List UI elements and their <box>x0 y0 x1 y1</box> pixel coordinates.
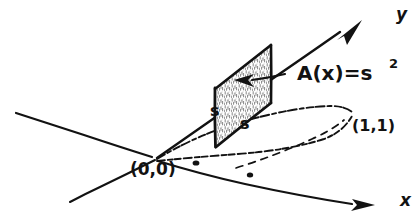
side-label-bottom: s <box>240 114 250 133</box>
hand-drawn-diagram: y x (0,0) (1,1) s s A(x)=s 2 <box>0 0 419 223</box>
corner-point-label: (1,1) <box>352 116 395 135</box>
area-formula-label: A(x)=s 2 <box>297 56 398 85</box>
x-axis-label: x <box>399 190 412 210</box>
area-formula-text: A(x)=s <box>297 61 372 85</box>
figure-canvas: y x (0,0) (1,1) s s A(x)=s 2 <box>0 0 419 223</box>
origin-label: (0,0) <box>130 159 176 179</box>
y-axis-label: y <box>396 4 408 24</box>
area-formula-exponent: 2 <box>389 56 398 71</box>
side-label-left: s <box>210 101 220 120</box>
base-marker-dots <box>193 160 254 177</box>
